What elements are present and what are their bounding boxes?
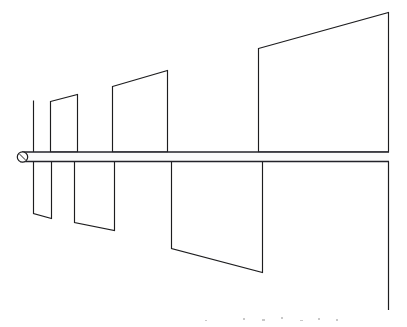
lower-vane-3 [172,162,263,273]
figure-root [0,0,407,327]
lower-vane-2 [75,162,115,231]
shaft-body [22,152,389,161]
scan-speck [300,320,303,321]
scan-speckle-group [205,317,338,321]
scan-speck [336,319,338,321]
scan-speck [262,319,265,321]
scan-speck [281,317,283,319]
lower-vane-group [34,162,263,273]
upper-vane-4 [259,13,389,153]
lower-vane-1 [34,162,52,219]
upper-vane-group [34,13,389,153]
upper-vane-2 [51,95,78,153]
scan-speck [205,320,207,321]
end-hub [17,152,27,162]
horizontal-shaft [20,152,389,162]
upper-vane-3 [113,71,168,153]
scan-speck [243,318,245,320]
technical-line-drawing [0,0,407,327]
scan-speck [318,318,320,320]
